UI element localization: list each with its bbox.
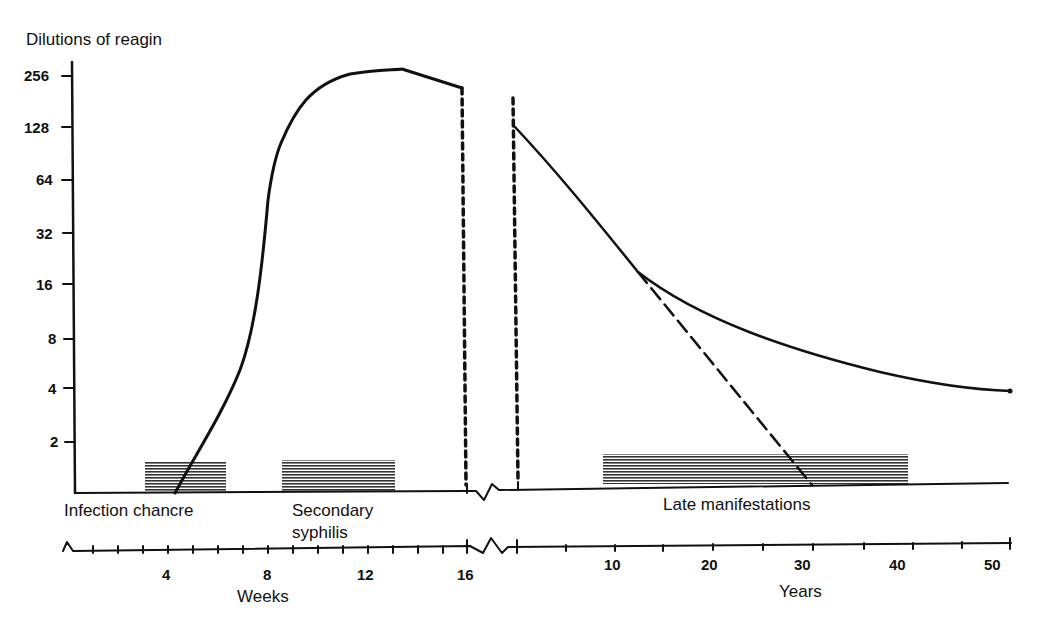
shaded-period-late <box>603 454 908 484</box>
years-tick-10: 10 <box>604 556 621 573</box>
years-tick-30: 30 <box>794 556 811 573</box>
marker-16-weeks <box>462 88 466 485</box>
y-tick-2: 2 <box>50 433 58 450</box>
label-secondary-line1: Secondary <box>292 501 374 520</box>
weeks-axis-title: Weeks <box>237 587 289 606</box>
years-tick-20: 20 <box>701 556 718 573</box>
series-years-untreated <box>515 127 1011 391</box>
y-tick-16: 16 <box>36 276 53 293</box>
y-tick-4: 4 <box>48 380 57 397</box>
y-axis-title: Dilutions of reagin <box>26 30 162 49</box>
weeks-tick-4: 4 <box>162 566 171 583</box>
years-tick-50: 50 <box>984 556 1001 573</box>
y-tick-64: 64 <box>36 171 53 188</box>
label-secondary-line2: syphilis <box>292 523 348 542</box>
reagin-titre-chart: Dilutions of reagin 256 128 64 32 16 8 4… <box>0 0 1042 623</box>
time-axis <box>63 538 1011 553</box>
shaded-period-secondary <box>282 460 395 491</box>
weeks-tick-12: 12 <box>357 566 374 583</box>
weeks-tick-16: 16 <box>457 566 474 583</box>
marker-0-years <box>513 98 518 480</box>
years-tick-40: 40 <box>889 556 906 573</box>
weeks-tick-8: 8 <box>263 566 271 583</box>
series-years-dashed <box>638 272 812 485</box>
y-tick-8: 8 <box>48 330 56 347</box>
y-tick-256: 256 <box>24 67 49 84</box>
y-tick-32: 32 <box>36 225 53 242</box>
series-end-point <box>1008 389 1013 394</box>
label-late-manifestations: Late manifestations <box>663 495 810 514</box>
label-infection-chancre: Infection chancre <box>64 501 193 520</box>
y-tick-labels: 256 128 64 32 16 8 4 2 <box>24 67 58 450</box>
series-weeks-curve <box>175 69 462 493</box>
y-tick-128: 128 <box>24 119 49 136</box>
years-axis-title: Years <box>779 582 822 601</box>
